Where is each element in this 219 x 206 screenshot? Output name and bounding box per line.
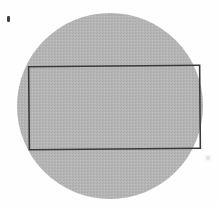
geometry-figure bbox=[0, 0, 219, 206]
scan-smudge-artifact bbox=[206, 156, 210, 160]
figure-canvas: Rectangle inscribed in a circle A shaded… bbox=[0, 0, 219, 206]
scan-speck-artifact bbox=[7, 16, 10, 22]
shaded-circle bbox=[17, 13, 203, 199]
